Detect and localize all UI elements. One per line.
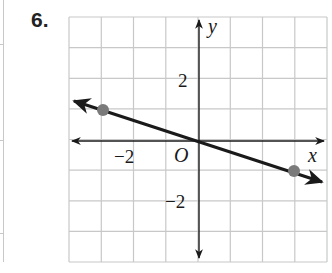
point-3-neg1 [288, 165, 300, 177]
tick-label-y-2: 2 [178, 70, 188, 91]
x-axis-label: x [307, 144, 317, 166]
tick-label-y-neg2: −2 [165, 191, 185, 212]
y-axis-label: y [206, 15, 217, 38]
origin-label: O [174, 144, 188, 166]
grid [69, 17, 327, 262]
point-neg3-1 [97, 104, 109, 116]
tick-label-x-neg2: −2 [114, 146, 134, 167]
coordinate-plane: y x O 2 −2 −2 [0, 0, 332, 273]
